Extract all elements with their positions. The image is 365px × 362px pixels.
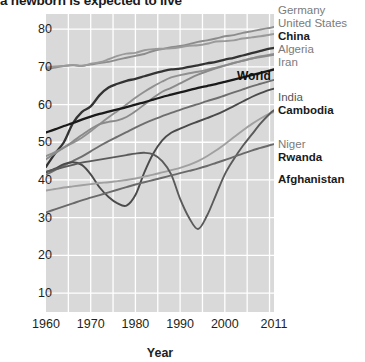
series-line-rwanda bbox=[46, 110, 274, 229]
legend-item-china[interactable]: China bbox=[278, 30, 310, 42]
x-axis-label: Year bbox=[46, 346, 274, 360]
legend-item-algeria[interactable]: Algeria bbox=[278, 43, 314, 55]
x-axis-tick-label: 2000 bbox=[202, 318, 248, 331]
series-line-afghanistan bbox=[46, 144, 274, 212]
legend-item-niger[interactable]: Niger bbox=[278, 138, 305, 150]
page-title: a newborn is expected to live bbox=[0, 0, 290, 8]
series-lines bbox=[46, 14, 274, 312]
legend-item-united-states[interactable]: United States bbox=[278, 17, 347, 29]
y-axis-tick-label: 60 bbox=[12, 99, 52, 111]
y-axis-tick-label: 20 bbox=[12, 249, 52, 261]
series-line-india bbox=[46, 80, 274, 175]
legend-item-iran[interactable]: Iran bbox=[278, 56, 298, 68]
x-axis-tick-label: 2011 bbox=[251, 318, 297, 331]
legend-item-rwanda[interactable]: Rwanda bbox=[278, 151, 322, 163]
x-axis-tick-label: 1980 bbox=[112, 318, 158, 331]
x-axis-tick-label: 1960 bbox=[23, 318, 69, 331]
legend: GermanyUnited StatesChinaAlgeriaIranIndi… bbox=[278, 0, 365, 180]
y-axis-tick-label: 80 bbox=[12, 23, 52, 35]
legend-item-germany[interactable]: Germany bbox=[278, 4, 325, 16]
y-axis-tick-label: 70 bbox=[12, 61, 52, 73]
y-axis-tick-label: 10 bbox=[12, 287, 52, 299]
y-axis-tick-label: 50 bbox=[12, 136, 52, 148]
legend-item-cambodia[interactable]: Cambodia bbox=[278, 104, 334, 116]
x-axis-tick-label: 1970 bbox=[68, 318, 114, 331]
x-axis-tick-label: 1990 bbox=[157, 318, 203, 331]
y-axis-tick-label: 30 bbox=[12, 212, 52, 224]
life-expectancy-line-chart: a newborn is expected to live 1020304050… bbox=[0, 0, 365, 362]
y-axis-tick-label: 40 bbox=[12, 174, 52, 186]
legend-item-afghanistan[interactable]: Afghanistan bbox=[278, 173, 344, 185]
legend-item-india[interactable]: India bbox=[278, 91, 303, 103]
plot-area bbox=[46, 14, 274, 312]
series-line-cambodia bbox=[46, 89, 274, 206]
world-series-annotation: World bbox=[237, 69, 271, 83]
series-line-united-states bbox=[46, 34, 274, 68]
